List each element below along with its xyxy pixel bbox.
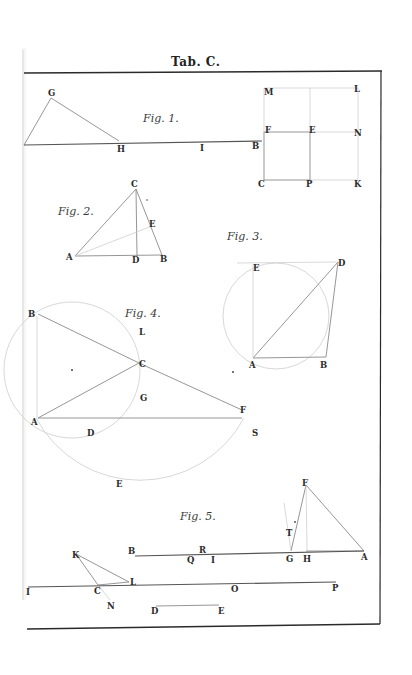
line-de [156,605,219,606]
point-label: H [117,144,125,154]
frame-top [24,71,382,73]
point-label: L [354,84,360,94]
point-label: I [26,587,30,597]
point-label: E [309,125,316,135]
point-label: B [28,309,35,319]
line-hb [24,141,262,145]
point-label: L [139,327,145,337]
point-label: M [264,87,274,97]
point-label: T [286,528,293,538]
point-label: G [48,88,55,98]
figure-4: Fig. 4. B L C G A D F S E [4,302,258,489]
figure-2: Fig. 2. C E A D B [57,179,167,265]
point-label: L [130,577,136,587]
center-marker [71,369,73,371]
point-label: I [211,555,215,565]
point-label: F [240,405,246,415]
point-label: E [253,263,260,273]
line-tg [284,503,291,551]
line-ac [38,363,139,418]
large-arc [36,418,244,480]
figure-caption: Fig. 3. [226,230,263,243]
point-label: B [252,141,259,151]
point-label: A [30,417,38,427]
triangle-g [24,98,119,145]
point-label: A [360,552,368,562]
line-ae [75,226,152,256]
frame-right [380,71,381,624]
diagonal-ad [253,262,338,358]
point-label: G [140,393,147,403]
point-label: F [265,125,271,135]
engraved-plate: Tab. C. Fig. 1. G H I B M L F E N C P K … [0,0,412,675]
point-label: G [286,554,293,564]
point-label: E [149,219,156,229]
point-label: C [131,179,138,189]
point-marker [146,199,148,201]
point-label: Q [187,555,195,565]
figure-3: Fig. 3. E D A B [223,230,346,373]
point-label: A [65,252,73,262]
point-label: O [231,584,239,594]
point-label: H [303,554,311,564]
line-ba [135,551,364,556]
point-label: C [139,359,146,369]
point-label: C [94,586,101,596]
point-label: C [258,179,265,189]
altitude-cd [136,189,137,256]
point-marker [294,521,296,523]
figure-1: Fig. 1. G H I B M L F E N C P K [24,84,362,189]
point-label: N [354,128,362,138]
point-label: K [72,550,80,560]
point-label: E [218,606,225,616]
point-label: I [200,143,204,153]
point-label: D [87,428,95,438]
plate-title: Tab. C. [171,55,220,69]
point-label: B [160,254,167,264]
point-label: P [306,179,313,189]
point-label: K [354,179,362,189]
square-fecp [264,132,310,180]
point-label: F [302,478,308,488]
triangle-fha [306,485,364,551]
point-label: D [151,606,159,616]
point-label: A [248,360,256,370]
point-label: S [252,428,258,438]
figure-caption: Fig. 5. [179,510,216,523]
circle-abd [223,263,329,369]
point-label: B [128,546,135,556]
point-label: N [107,601,115,611]
point-label: P [332,583,339,593]
point-label: B [320,360,327,370]
triangle-kcl [76,554,129,585]
figure-caption: Fig. 1. [142,112,179,125]
point-label: R [199,545,207,555]
point-label: D [132,255,140,265]
figure-caption: Fig. 2. [57,205,94,218]
frame-bottom [27,624,380,629]
line-ip [28,582,336,587]
point-label: D [338,258,346,268]
point-label: E [116,479,123,489]
figure-caption: Fig. 4. [124,307,161,320]
figure-5: Fig. 5. F T B R Q I G H A K L C N O P D … [26,478,368,616]
point-marker [232,371,234,373]
line-fh [306,485,307,551]
line-fg [291,485,306,551]
